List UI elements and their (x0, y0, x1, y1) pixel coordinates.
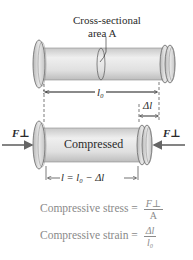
force-right-label: F⊥ (163, 127, 181, 140)
compressive-strain-equation: Compressive strain = Δl l₀ (40, 225, 156, 248)
cross-section-label: Cross-sectional (73, 14, 141, 26)
delta-length-label: Δl (143, 100, 152, 111)
compressed-label: Compressed (64, 137, 123, 152)
strain-denominator: l₀ (144, 237, 157, 248)
compressive-stress-equation: Compressive stress = F⊥ A (40, 198, 163, 221)
strain-label: Compressive strain = (40, 229, 138, 241)
original-rod (33, 37, 175, 88)
compressed-length-label: l = l₀ − Δl (61, 172, 104, 183)
stress-label: Compressive stress = (40, 202, 138, 214)
stress-numerator: F⊥ (144, 198, 164, 210)
original-length-label: l₀ (95, 86, 106, 98)
force-left-label: F⊥ (12, 127, 30, 140)
strain-numerator: Δl (144, 225, 157, 237)
stress-denominator: A (144, 210, 164, 221)
cross-section-area-label: area A (88, 27, 116, 39)
